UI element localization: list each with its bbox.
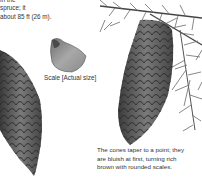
- caption-line: are bluish at first, turning rich: [97, 155, 202, 164]
- caption-line: The cones taper to a point; they: [97, 146, 202, 155]
- intro-line: spruce; it: [0, 4, 80, 12]
- book-page: in the spruce; it about 85 ft (26 m). Sc…: [0, 0, 202, 186]
- cone-scale-icon: [51, 38, 87, 72]
- intro-text: in the spruce; it about 85 ft (26 m).: [0, 0, 80, 21]
- scale-caption: Scale [Actual size]: [44, 74, 96, 81]
- cones-caption: The cones taper to a point; they are blu…: [97, 146, 202, 172]
- left-cone-icon: [0, 50, 42, 176]
- large-cone-icon: [118, 20, 173, 145]
- intro-line: about 85 ft (26 m).: [0, 13, 80, 21]
- caption-line: brown with rounded scales.: [97, 163, 202, 172]
